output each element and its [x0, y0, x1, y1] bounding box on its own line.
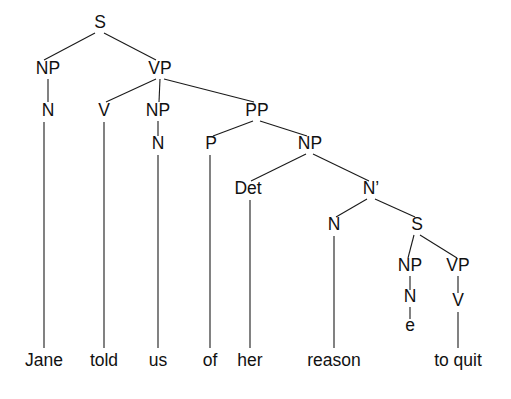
tree-node-det_her: Det — [234, 178, 261, 198]
syntax-tree-figure: SNPVPNVNPPPNPNPDetN’NSNPVPNVe Janetoldus… — [0, 0, 511, 399]
tree-node-n_obj: N — [152, 133, 165, 153]
tree-node-s_embed: S — [411, 214, 423, 234]
terminal-word-t_her: her — [237, 350, 262, 370]
terminal-word-t_of: of — [203, 350, 218, 370]
tree-node-e_trace: e — [405, 315, 415, 335]
terminal-word-t_us: us — [149, 350, 168, 370]
terminal-word-t_told: told — [90, 350, 118, 370]
tree-node-s_root: S — [94, 12, 106, 32]
tree-node-vp_embed: VP — [446, 255, 469, 275]
tree-node-n_subj: N — [42, 100, 55, 120]
tree-node-np_obj: NP — [146, 100, 170, 120]
figure-background — [0, 0, 511, 399]
terminal-word-t_toquit: to quit — [434, 350, 482, 370]
tree-node-np_empty: NP — [398, 255, 422, 275]
tree-node-n_reason: N — [328, 214, 341, 234]
terminal-word-t_reason: reason — [307, 350, 361, 370]
tree-node-vp_main: VP — [148, 58, 171, 78]
terminal-word-t_jane: Jane — [25, 350, 63, 370]
tree-node-np_pobj: NP — [298, 133, 322, 153]
tree-node-n_empty: N — [404, 286, 417, 306]
tree-node-nbar: N’ — [363, 178, 380, 198]
tree-node-v_quit: V — [452, 290, 464, 310]
tree-node-v_told: V — [98, 100, 110, 120]
tree-node-pp: PP — [245, 100, 268, 120]
tree-node-p_of: P — [205, 133, 217, 153]
tree-node-np_subj: NP — [36, 58, 60, 78]
